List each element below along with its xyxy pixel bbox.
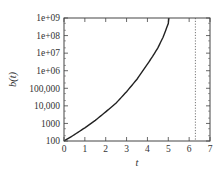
x-tick-label: 2 bbox=[103, 144, 108, 154]
x-tick-label: 0 bbox=[62, 144, 67, 154]
x-tick-label: 1 bbox=[82, 144, 87, 154]
x-tick-label: 3 bbox=[124, 144, 129, 154]
x-axis-label: t bbox=[136, 157, 140, 168]
chart: 01234567 100100010,000100,0001e+061e+071… bbox=[0, 0, 223, 175]
series-layer bbox=[64, 18, 169, 141]
y-tick-label: 1000 bbox=[41, 119, 60, 129]
y-tick-label: 1e+08 bbox=[36, 31, 60, 41]
y-tick-label: 100,000 bbox=[29, 84, 60, 94]
y-tick-label: 1e+06 bbox=[36, 66, 60, 76]
y-axis-label: b(t) bbox=[7, 71, 19, 87]
y-tick-label: 100 bbox=[46, 136, 61, 146]
x-tick-labels: 01234567 bbox=[62, 144, 213, 154]
y-tick-label: 1e+09 bbox=[36, 13, 60, 23]
x-tick-label: 5 bbox=[166, 144, 171, 154]
x-tick-label: 4 bbox=[145, 144, 150, 154]
y-tick-labels: 100100010,000100,0001e+061e+071e+081e+09 bbox=[29, 13, 60, 146]
y-tick-label: 10,000 bbox=[34, 101, 60, 111]
x-tick-label: 7 bbox=[208, 144, 213, 154]
series-line-b-t bbox=[64, 18, 169, 141]
x-tick-label: 6 bbox=[187, 144, 192, 154]
y-tick-label: 1e+07 bbox=[36, 48, 60, 58]
